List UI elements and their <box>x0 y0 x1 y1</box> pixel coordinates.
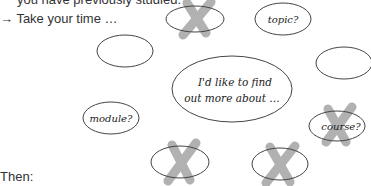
bubble-center: I'd like to find out more about … <box>172 56 292 122</box>
bubble-right-empty <box>316 47 371 79</box>
bubble-top-crossed <box>166 2 224 35</box>
cross-out-icon <box>168 143 196 181</box>
bubble-top-left-empty <box>97 35 153 67</box>
center-line-1: I'd like to find <box>197 76 272 88</box>
bubble-course-label: course? <box>321 121 361 132</box>
bubble-bottom-left-crossed <box>151 143 209 181</box>
bubble-module: module? <box>83 102 139 134</box>
bubble-bottom-right-crossed <box>252 146 308 183</box>
bubble-topic-label: topic? <box>268 14 299 25</box>
mind-map-diagram: topic? I'd like to find out more about …… <box>0 0 371 186</box>
bubble-topic: topic? <box>255 3 311 35</box>
bubble-course: course? <box>309 107 365 142</box>
bubble-module-label: module? <box>90 113 133 124</box>
cross-out-icon <box>266 146 295 183</box>
center-line-2: out more about … <box>184 92 280 104</box>
